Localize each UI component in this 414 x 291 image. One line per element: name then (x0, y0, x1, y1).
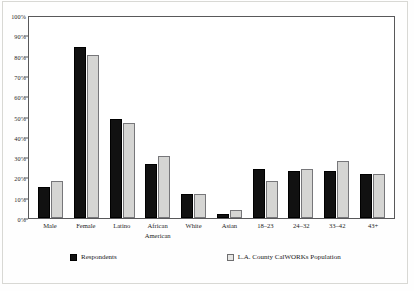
bar-groups (29, 17, 394, 218)
bar-respondents (360, 174, 372, 218)
bar-calworks (337, 161, 349, 218)
bar-calworks (194, 194, 206, 218)
bar-respondents (288, 171, 300, 218)
x-axis-tick-label: 43+ (355, 221, 391, 240)
legend-entry: L.A. County CalWORKs Population (227, 253, 341, 261)
bar-group (247, 17, 283, 218)
bar-calworks (266, 181, 278, 218)
bar-group (283, 17, 319, 218)
bar-group (354, 17, 390, 218)
bar-respondents (74, 47, 86, 218)
legend-entry: Respondents (70, 253, 117, 261)
bar-respondents (253, 169, 265, 218)
bar-group (176, 17, 212, 218)
bar-group (319, 17, 355, 218)
x-axis-tick-label: African American (140, 221, 176, 240)
bar-calworks (230, 210, 242, 218)
y-axis: 0%10%20%30%40%50%60%70%80%90%100% (0, 0, 28, 220)
bar-group (140, 17, 176, 218)
bar-calworks (51, 181, 63, 218)
x-axis-tick-label: 18–23 (247, 221, 283, 240)
chart-legend: RespondentsL.A. County CalWORKs Populati… (28, 253, 395, 261)
bar-calworks (158, 156, 170, 218)
bar-respondents (38, 187, 50, 218)
bar-respondents (217, 214, 229, 218)
bar-respondents (110, 119, 122, 218)
bar-group (104, 17, 140, 218)
bar-group (69, 17, 105, 218)
x-axis-tick-label: Male (32, 221, 68, 240)
bar-calworks (123, 123, 135, 218)
legend-swatch-icon (70, 254, 77, 261)
legend-swatch-icon (227, 254, 234, 261)
bar-group (212, 17, 248, 218)
x-axis-tick-label: White (176, 221, 212, 240)
bar-group (33, 17, 69, 218)
bar-respondents (181, 194, 193, 218)
bar-calworks (301, 169, 313, 218)
bar-respondents (324, 171, 336, 218)
chart-figure: 0%10%20%30%40%50%60%70%80%90%100% MaleFe… (0, 0, 414, 291)
x-axis-tick-label: Latino (104, 221, 140, 240)
bar-respondents (145, 164, 157, 218)
legend-label: L.A. County CalWORKs Population (238, 253, 341, 261)
x-axis-tick-label: 33–42 (319, 221, 355, 240)
x-axis-tick-label: Female (68, 221, 104, 240)
plot-area (28, 16, 395, 219)
x-axis-labels: MaleFemaleLatinoAfrican AmericanWhiteAsi… (28, 221, 395, 240)
y-axis-tick-label: 100% (11, 13, 26, 20)
bar-calworks (87, 55, 99, 218)
legend-label: Respondents (81, 253, 117, 261)
bar-calworks (373, 174, 385, 218)
x-axis-tick-label: Asian (212, 221, 248, 240)
x-axis-tick-label: 24–32 (283, 221, 319, 240)
